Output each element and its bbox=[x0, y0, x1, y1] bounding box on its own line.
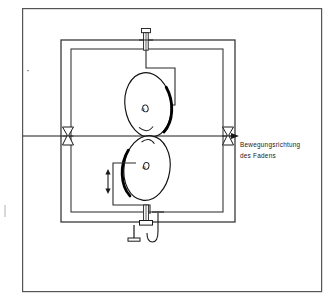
mount-foot bbox=[128, 238, 140, 241]
thread-guide-right bbox=[223, 127, 234, 145]
drawing-canvas: Bewegungsrichtung des Fadens o o bbox=[0, 0, 334, 308]
speck-lower-left bbox=[4, 205, 6, 217]
motion-direction-label-line2: des Fadens bbox=[240, 152, 276, 159]
technical-drawing-figure: Bewegungsrichtung des Fadens o o bbox=[0, 0, 334, 308]
motion-direction-label-line1: Bewegungsrichtung bbox=[240, 141, 301, 149]
bolt-head bbox=[142, 29, 151, 33]
thread-guide-left bbox=[63, 127, 74, 145]
mount-nut bbox=[140, 221, 153, 226]
speck-upper-left bbox=[27, 70, 29, 71]
